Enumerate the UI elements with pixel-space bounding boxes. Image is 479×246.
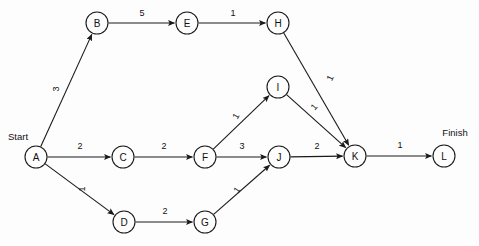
edge-weight-j-k: 2 (314, 141, 319, 151)
edge-weight-a-d: 1 (77, 186, 87, 191)
node-label-e: E (184, 18, 191, 29)
edge-weight-f-j: 3 (239, 141, 244, 151)
edge-weight-a-c: 2 (77, 141, 82, 151)
edge-weight-f-i: 1 (230, 111, 241, 120)
node-label-j: J (277, 152, 282, 163)
network-diagram-canvas: ABCDEFGHIJKL 32152211311121 StartFinish (0, 0, 479, 246)
edge-weight-a-b: 3 (51, 86, 61, 91)
finish-label: Finish (442, 127, 467, 138)
node-label-c: C (119, 152, 126, 163)
node-j[interactable]: J (268, 146, 290, 168)
node-label-k: K (352, 151, 359, 162)
node-b[interactable]: B (86, 12, 108, 34)
edge-weight-i-k: 1 (309, 102, 320, 112)
node-e[interactable]: E (176, 12, 198, 34)
node-label-b: B (94, 18, 101, 29)
node-i[interactable]: I (267, 76, 289, 98)
edge-weight-b-e: 5 (139, 8, 144, 18)
node-k[interactable]: K (344, 145, 366, 167)
node-label-h: H (274, 18, 281, 29)
node-label-i: I (277, 82, 280, 93)
edge-a-b (41, 34, 92, 146)
edge-weight-k-l: 1 (397, 140, 402, 150)
node-label-l: L (441, 151, 447, 162)
node-label-a: A (33, 152, 40, 163)
node-label-f: F (202, 152, 208, 163)
node-f[interactable]: F (194, 146, 216, 168)
edge-weight-g-j: 1 (231, 185, 242, 195)
edge-h-k (284, 33, 349, 145)
edge-weights-layer: 32152211311121 (51, 8, 403, 216)
node-label-d: D (120, 217, 127, 228)
node-c[interactable]: C (112, 146, 134, 168)
edge-weight-h-k: 1 (324, 74, 335, 83)
edge-weight-d-g: 2 (162, 206, 167, 216)
node-d[interactable]: D (113, 211, 135, 233)
nodes-layer: ABCDEFGHIJKL (25, 12, 455, 233)
node-label-g: G (201, 217, 209, 228)
node-g[interactable]: G (194, 211, 216, 233)
start-label: Start (8, 131, 28, 142)
network-diagram-svg: ABCDEFGHIJKL 32152211311121 StartFinish (0, 0, 479, 246)
edge-i-k (287, 95, 346, 148)
node-h[interactable]: H (267, 12, 289, 34)
node-a[interactable]: A (25, 146, 47, 168)
edge-j-k (290, 156, 342, 157)
edge-weight-e-h: 1 (230, 8, 235, 18)
edge-g-j (214, 165, 270, 214)
edge-weight-c-f: 2 (161, 141, 166, 151)
node-l[interactable]: L (433, 145, 455, 167)
